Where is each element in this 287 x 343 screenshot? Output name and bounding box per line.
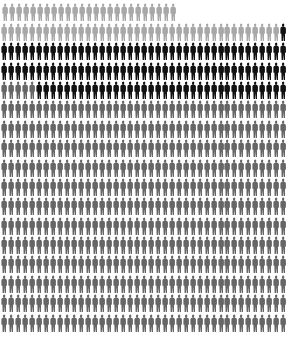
soldier-silhouette-icon [92, 120, 99, 138]
soldier-silhouette-icon [99, 42, 106, 60]
soldier-silhouette-icon [273, 62, 280, 80]
soldier-silhouette-icon [85, 159, 92, 177]
soldier-silhouette-icon [238, 62, 245, 80]
soldier-silhouette-icon [189, 294, 196, 312]
soldier-silhouette-icon [189, 120, 196, 138]
soldier-silhouette-icon [50, 100, 57, 118]
soldier-silhouette-icon [245, 178, 252, 196]
soldier-silhouette-icon [231, 62, 238, 80]
soldier-silhouette-icon [57, 23, 64, 41]
soldier-silhouette-icon [175, 236, 182, 254]
soldier-silhouette-icon [266, 275, 273, 293]
soldier-silhouette-icon [15, 23, 22, 41]
soldier-silhouette-icon [113, 62, 120, 80]
soldier-silhouette-icon [210, 314, 217, 332]
soldier-silhouette-icon [266, 217, 273, 235]
soldier-silhouette-icon [168, 275, 175, 293]
soldier-silhouette-icon [36, 120, 43, 138]
soldier-silhouette-icon [245, 139, 252, 157]
soldier-silhouette-icon [140, 178, 147, 196]
soldier-silhouette-icon [231, 314, 238, 332]
soldier-silhouette-icon [1, 178, 8, 196]
soldier-silhouette-icon [92, 178, 99, 196]
soldier-silhouette-icon [78, 275, 85, 293]
soldier-silhouette-icon [161, 159, 168, 177]
soldier-silhouette-icon [64, 139, 71, 157]
soldier-silhouette-icon [113, 314, 120, 332]
soldier-silhouette-icon [126, 159, 133, 177]
soldier-silhouette-icon [57, 81, 64, 99]
soldier-silhouette-icon [43, 275, 50, 293]
soldier-silhouette-icon [231, 139, 238, 157]
soldier-silhouette-icon [161, 217, 168, 235]
soldier-silhouette-icon [43, 62, 50, 80]
soldier-silhouette-icon [22, 23, 29, 41]
soldier-silhouette-icon [78, 3, 85, 21]
soldier-silhouette-icon [64, 100, 71, 118]
soldier-silhouette-icon [126, 120, 133, 138]
soldier-silhouette-icon [119, 100, 126, 118]
soldier-silhouette-icon [259, 62, 266, 80]
soldier-silhouette-icon [1, 197, 8, 215]
soldier-silhouette-icon [175, 314, 182, 332]
soldier-silhouette-icon [196, 294, 203, 312]
soldier-silhouette-icon [196, 42, 203, 60]
soldier-silhouette-icon [168, 100, 175, 118]
soldier-silhouette-icon [224, 100, 231, 118]
soldier-silhouette-icon [78, 255, 85, 273]
soldier-silhouette-icon [210, 178, 217, 196]
soldier-silhouette-icon [1, 100, 8, 118]
soldier-silhouette-icon [126, 314, 133, 332]
soldier-silhouette-icon [106, 314, 113, 332]
soldier-silhouette-icon [154, 42, 161, 60]
soldier-silhouette-icon [119, 23, 126, 41]
soldier-silhouette-icon [106, 3, 113, 21]
soldier-silhouette-icon [175, 294, 182, 312]
soldier-silhouette-icon [140, 159, 147, 177]
soldier-silhouette-icon [106, 275, 113, 293]
soldier-silhouette-icon [133, 197, 140, 215]
soldier-silhouette-icon [85, 197, 92, 215]
soldier-silhouette-icon [92, 217, 99, 235]
soldier-silhouette-icon [140, 81, 147, 99]
soldier-silhouette-icon [43, 236, 50, 254]
soldier-silhouette-icon [182, 23, 189, 41]
soldier-silhouette-icon [189, 217, 196, 235]
soldier-silhouette-icon [217, 314, 224, 332]
soldier-silhouette-icon [85, 3, 92, 21]
soldier-silhouette-icon [147, 314, 154, 332]
soldier-silhouette-icon [273, 255, 280, 273]
soldier-silhouette-icon [57, 178, 64, 196]
soldier-silhouette-icon [140, 139, 147, 157]
soldier-silhouette-icon [189, 255, 196, 273]
soldier-silhouette-icon [57, 314, 64, 332]
soldier-silhouette-icon [175, 139, 182, 157]
soldier-silhouette-icon [29, 100, 36, 118]
soldier-silhouette-icon [140, 62, 147, 80]
pictogram-grid [0, 0, 287, 343]
soldier-silhouette-icon [168, 62, 175, 80]
soldier-silhouette-icon [238, 314, 245, 332]
soldier-silhouette-icon [43, 81, 50, 99]
soldier-silhouette-icon [64, 197, 71, 215]
soldier-silhouette-icon [29, 3, 36, 21]
soldier-silhouette-icon [92, 139, 99, 157]
soldier-silhouette-icon [1, 255, 8, 273]
soldier-silhouette-icon [1, 217, 8, 235]
soldier-silhouette-icon [252, 23, 259, 41]
soldier-silhouette-icon [119, 120, 126, 138]
soldier-silhouette-icon [252, 42, 259, 60]
soldier-silhouette-icon [78, 236, 85, 254]
soldier-silhouette-icon [161, 81, 168, 99]
soldier-silhouette-icon [113, 120, 120, 138]
soldier-silhouette-icon [154, 62, 161, 80]
pictogram-row [1, 60, 287, 79]
soldier-silhouette-icon [140, 217, 147, 235]
soldier-silhouette-icon [126, 236, 133, 254]
soldier-silhouette-icon [273, 294, 280, 312]
soldier-silhouette-icon [203, 294, 210, 312]
soldier-silhouette-icon [273, 159, 280, 177]
soldier-silhouette-icon [280, 100, 287, 118]
soldier-silhouette-icon [154, 197, 161, 215]
soldier-silhouette-icon [147, 236, 154, 254]
